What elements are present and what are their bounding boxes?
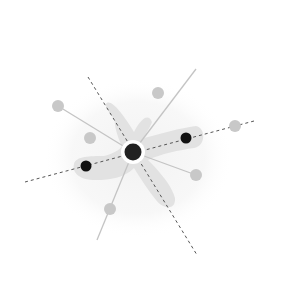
gray-node[interactable] (152, 87, 164, 99)
black-node[interactable] (81, 161, 92, 172)
center-node[interactable] (125, 144, 142, 161)
gray-node[interactable] (104, 203, 116, 215)
gray-node[interactable] (52, 100, 64, 112)
black-node[interactable] (181, 133, 192, 144)
gray-node[interactable] (84, 132, 96, 144)
network-diagram (0, 0, 284, 303)
gray-node[interactable] (229, 120, 241, 132)
gray-node[interactable] (190, 169, 202, 181)
diagram-canvas (0, 0, 284, 303)
